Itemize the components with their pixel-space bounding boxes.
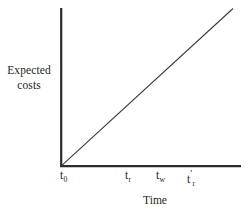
y-axis-label-line-1: Expected	[2, 63, 56, 78]
x-tick-tw-subscript: w	[160, 175, 165, 184]
x-tick-label-t0: t0	[60, 169, 67, 183]
x-tick-t0-base: t	[60, 169, 63, 181]
x-tick-tr-base: t	[125, 169, 128, 181]
expected-costs-vs-time-figure: Expected costs t0 tr tw t′r Time	[0, 0, 246, 214]
expected-costs-line	[62, 9, 233, 166]
x-tick-tr-prime-subscript: r	[193, 179, 196, 188]
y-axis-label: Expected costs	[2, 63, 56, 93]
x-axis-label: Time	[131, 193, 179, 207]
y-axis-label-line-2: costs	[2, 78, 56, 93]
x-tick-tr-subscript: r	[129, 175, 132, 184]
x-tick-label-tr-prime: t′r	[187, 169, 195, 187]
x-tick-tr-prime-mark: ′	[190, 169, 192, 179]
x-tick-label-tr: tr	[125, 169, 131, 183]
x-tick-t0-subscript: 0	[64, 175, 68, 184]
x-tick-tw-base: t	[156, 169, 159, 181]
x-tick-label-tw: tw	[156, 169, 165, 183]
plot-area	[0, 0, 246, 214]
